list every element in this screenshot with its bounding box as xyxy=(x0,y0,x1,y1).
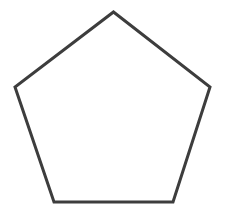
drawing-canvas xyxy=(0,0,227,216)
canvas-background xyxy=(0,0,227,216)
pentagon-figure xyxy=(0,0,227,216)
